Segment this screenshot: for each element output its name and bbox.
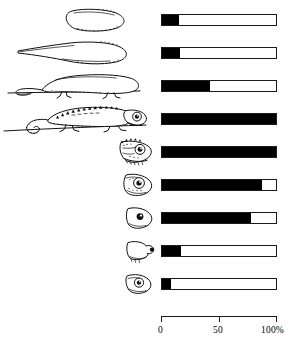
head-detailed-casque-icon [0,136,155,168]
bar-track [161,14,277,26]
axis-label-100-text: 100% [261,325,284,335]
bar-fill [162,15,179,25]
chart-row [0,4,298,36]
bar-track [161,113,277,125]
head-outline-snout-icon [0,235,155,267]
axis-tick-0 [161,316,162,322]
chart-row [0,169,298,201]
bar-fill [162,81,210,91]
bar-fill [162,246,181,256]
chart-row [0,268,298,300]
figure-panel: 0 50 100% [0,0,298,344]
x-axis [161,316,277,324]
bar-track [161,245,277,257]
bar-fill [162,48,180,58]
chart-row [0,202,298,234]
axis-tick-100 [276,316,277,322]
bar-track [161,212,277,224]
egg-oval-icon [0,4,155,36]
chart-row [0,235,298,267]
axis-label-50-text: 50 [213,325,223,335]
bar-track [161,47,277,59]
axis-tick-50 [219,316,220,322]
bar-track [161,146,277,158]
chart-row [0,70,298,102]
axis-label-0: 0 [158,325,163,336]
bar-track [161,179,277,191]
chart-row [0,136,298,168]
axis-label-0-text: 0 [158,325,163,335]
bar-fill [162,180,262,190]
chart-row [0,37,298,69]
head-eye-turret-icon [0,169,155,201]
bar-fill [162,147,276,157]
axis-label-100: 100% [261,325,284,336]
egg-with-tail-icon [0,37,155,69]
bar-track [161,80,277,92]
bar-track [161,278,277,290]
head-simplified-icon [0,202,155,234]
bar-fill [162,279,171,289]
embryo-lizard-icon [0,70,155,102]
axis-label-50: 50 [213,325,223,336]
head-plain-eye-icon [0,268,155,300]
juvenile-chameleon-icon [0,103,155,135]
bar-fill [162,213,251,223]
bar-fill [162,114,276,124]
chart-row [0,103,298,135]
